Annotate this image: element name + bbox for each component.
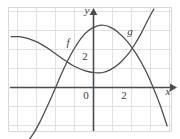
curve-g [11,9,154,73]
tick-label-x-2: 2 [121,89,127,101]
y-axis-label: y [84,4,90,16]
x-axis-arrowhead [170,84,177,92]
tick-label-origin: 0 [83,89,89,101]
x-axis-label: x [165,85,171,97]
curve-f [18,25,167,139]
figure-frame [9,8,172,132]
grid-lines [8,7,172,132]
curves-group [11,9,167,139]
curve-label-f: f [66,36,71,48]
axes-group [10,8,177,131]
tick-label-y-2: 2 [82,50,88,62]
cartesian-plot: 0 2 2 x y f g [0,0,180,139]
graph-figure: 0 2 2 x y f g [0,0,180,139]
curve-label-g: g [127,25,133,37]
